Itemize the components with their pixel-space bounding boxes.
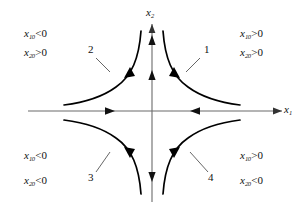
condition-sub: 20 [245,180,251,187]
y-axis-label-sub: 2 [151,12,154,19]
trajectory-arrowhead-1 [169,67,180,78]
x-axis-label: x1 [284,104,292,115]
condition-zero: 0 [42,27,48,39]
condition-bottom-right-x20: x20<0 [240,175,263,186]
branch-label-2: 2 [88,44,94,55]
trajectory-arrowhead-2 [124,67,135,78]
condition-sub: 10 [29,155,35,162]
branch-label-3: 3 [88,172,94,183]
trajectory-branch-3 [64,120,141,194]
trajectory-branch-4 [163,120,240,194]
condition-zero: 0 [42,174,48,186]
condition-rel: > [251,46,258,58]
x-axis-label-sub: 1 [289,109,292,116]
condition-top-left-x20: x20>0 [24,47,47,58]
flow-arrow-y-lower-outward [148,172,155,182]
y-axis-end-arrowhead [149,24,156,33]
phase-portrait-figure: x1 x2 1 2 3 4 x10<0 x20>0 x10>0 x20>0 x1… [0,0,308,213]
flow-arrow-x-right-inward [190,107,200,115]
condition-bottom-right-x10: x10>0 [240,150,263,161]
condition-sub: 10 [245,33,251,40]
condition-bottom-left-x20: x20<0 [24,175,47,186]
leader-line-3 [96,152,110,172]
leader-line-2 [96,58,110,72]
condition-zero: 0 [42,46,48,58]
trajectory-branch-1 [163,31,240,105]
trajectory-arrowhead-4 [169,147,180,158]
condition-zero: 0 [258,27,264,39]
flow-arrow-y-upper-outward [148,35,155,45]
condition-sub: 20 [29,52,35,59]
condition-rel: > [35,46,42,58]
condition-rel: < [35,174,42,186]
condition-top-right-x10: x10>0 [240,28,263,39]
trajectory-branch-2 [64,31,141,105]
flow-arrow-y-mid-outward [148,70,155,80]
condition-sub: 10 [29,33,35,40]
branch-label-1: 1 [204,44,210,55]
condition-zero: 0 [258,149,264,161]
condition-rel: < [251,174,258,186]
condition-rel: > [251,149,258,161]
condition-rel: < [35,149,42,161]
condition-sub: 20 [29,180,35,187]
branch-label-4: 4 [208,172,214,183]
x-axis-end-arrowhead [273,108,282,115]
flow-arrow-x-left-inward [105,107,115,115]
condition-rel: > [251,27,258,39]
trajectory-arrowhead-3 [124,147,135,158]
condition-sub: 20 [245,52,251,59]
condition-rel: < [35,27,42,39]
condition-top-left-x10: x10<0 [24,28,47,39]
y-axis-label: x2 [146,7,154,18]
leader-line-1 [186,58,200,72]
condition-zero: 0 [258,174,264,186]
condition-sub: 10 [245,155,251,162]
leader-line-4 [190,152,208,172]
condition-zero: 0 [258,46,264,58]
condition-bottom-left-x10: x10<0 [24,150,47,161]
condition-top-right-x20: x20>0 [240,47,263,58]
condition-zero: 0 [42,149,48,161]
